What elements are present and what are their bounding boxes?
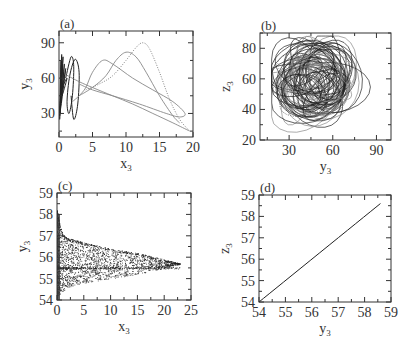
point bbox=[72, 245, 73, 246]
point bbox=[120, 251, 121, 252]
point bbox=[77, 257, 78, 258]
point bbox=[135, 264, 136, 265]
point bbox=[73, 286, 74, 287]
point bbox=[150, 259, 151, 260]
point bbox=[65, 266, 66, 267]
point bbox=[73, 246, 74, 247]
point bbox=[144, 256, 145, 257]
point bbox=[66, 261, 67, 262]
point bbox=[64, 290, 65, 291]
point bbox=[94, 245, 95, 246]
point bbox=[117, 277, 118, 278]
point bbox=[87, 266, 88, 267]
point bbox=[95, 261, 96, 262]
point bbox=[68, 284, 69, 285]
point bbox=[91, 258, 92, 259]
point bbox=[62, 251, 63, 252]
point bbox=[117, 252, 118, 253]
point bbox=[169, 264, 170, 265]
point bbox=[131, 253, 132, 254]
point bbox=[112, 255, 113, 256]
point bbox=[108, 268, 109, 269]
point bbox=[65, 241, 66, 242]
point bbox=[111, 273, 112, 274]
point bbox=[104, 262, 105, 263]
point bbox=[77, 262, 78, 263]
point bbox=[100, 278, 101, 279]
point bbox=[69, 265, 70, 266]
point bbox=[95, 273, 96, 274]
point bbox=[85, 244, 86, 245]
point bbox=[122, 263, 123, 264]
point bbox=[130, 256, 131, 257]
x-tick-label: 57 bbox=[331, 305, 345, 320]
point bbox=[99, 264, 100, 265]
point bbox=[93, 247, 94, 248]
point bbox=[68, 264, 69, 265]
point bbox=[133, 258, 134, 259]
point bbox=[146, 264, 147, 265]
point bbox=[72, 280, 73, 281]
x-tick-label: 30 bbox=[282, 143, 296, 158]
point bbox=[143, 256, 144, 257]
point bbox=[85, 260, 86, 261]
point bbox=[86, 247, 87, 248]
point bbox=[60, 230, 61, 231]
point bbox=[89, 275, 90, 276]
panel-label: (a) bbox=[60, 16, 74, 31]
point bbox=[136, 264, 137, 265]
point bbox=[73, 243, 74, 244]
point bbox=[107, 258, 108, 259]
point bbox=[87, 264, 88, 265]
point bbox=[63, 271, 64, 272]
point bbox=[153, 259, 154, 260]
point bbox=[106, 252, 107, 253]
point bbox=[171, 261, 172, 262]
point bbox=[96, 268, 97, 269]
point bbox=[103, 274, 104, 275]
point bbox=[142, 257, 143, 258]
point bbox=[96, 269, 97, 270]
point bbox=[99, 272, 100, 273]
point bbox=[90, 250, 91, 251]
point bbox=[137, 266, 138, 267]
point bbox=[89, 259, 90, 260]
point bbox=[125, 267, 126, 268]
point bbox=[120, 266, 121, 267]
point bbox=[138, 257, 139, 258]
point bbox=[66, 277, 67, 278]
point bbox=[116, 269, 117, 270]
point bbox=[63, 246, 64, 247]
y-tick-label: 56 bbox=[241, 252, 255, 267]
point bbox=[79, 266, 80, 267]
point bbox=[115, 257, 116, 258]
point bbox=[133, 273, 134, 274]
point bbox=[90, 248, 91, 249]
point bbox=[96, 271, 97, 272]
point bbox=[131, 252, 132, 253]
point bbox=[160, 261, 161, 262]
y-tick-label: 55 bbox=[39, 272, 53, 287]
point bbox=[135, 255, 136, 256]
point bbox=[84, 254, 85, 255]
point bbox=[174, 269, 175, 270]
point bbox=[86, 264, 87, 265]
point bbox=[133, 262, 134, 263]
point bbox=[97, 257, 98, 258]
point bbox=[104, 254, 105, 255]
point bbox=[84, 264, 85, 265]
point bbox=[82, 257, 83, 258]
point bbox=[64, 268, 65, 269]
point bbox=[148, 256, 149, 257]
point bbox=[149, 265, 150, 266]
point bbox=[95, 267, 96, 268]
y-tick-label: 56 bbox=[39, 250, 53, 265]
point bbox=[125, 264, 126, 265]
point bbox=[66, 274, 67, 275]
point bbox=[83, 268, 84, 269]
point bbox=[105, 259, 106, 260]
point bbox=[170, 262, 171, 263]
point bbox=[76, 257, 77, 258]
point bbox=[80, 241, 81, 242]
point bbox=[110, 268, 111, 269]
